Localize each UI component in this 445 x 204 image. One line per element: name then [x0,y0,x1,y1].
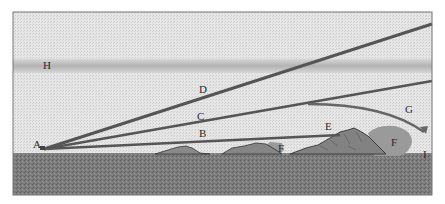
label-b: B [199,127,206,139]
label-h: H [43,59,51,71]
label-e: E [325,120,332,132]
label-d: D [199,83,207,95]
label-g: G [405,103,413,115]
label-i: I [423,148,427,160]
ground-region [13,153,432,195]
label-a: A [33,138,41,150]
label-f-small: F [278,142,284,154]
radar-propagation-diagram: H D C B A E F F G I [0,0,445,204]
atmospheric-layer-band [13,59,432,73]
label-c: C [197,110,204,122]
label-f-large: F [391,136,397,148]
